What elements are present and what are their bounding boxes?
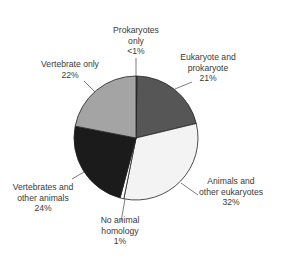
- label-percent: 21%: [173, 73, 243, 84]
- label-eukaryote-prokaryote: Eukaryote and prokaryote 21%: [173, 52, 243, 84]
- label-line: other eukaryotes: [191, 187, 271, 198]
- label-line: Animals and: [191, 176, 271, 187]
- label-prokaryotes-only: Prokaryotes only <1%: [111, 25, 161, 57]
- label-animals-other-eukaryotes: Animals and other eukaryotes 32%: [191, 176, 271, 208]
- label-line: other animals: [5, 193, 81, 204]
- label-line: only: [111, 36, 161, 47]
- label-no-animal-homology: No animal homology 1%: [94, 215, 146, 247]
- label-line: Vertebrates and: [5, 182, 81, 193]
- label-percent: 24%: [5, 203, 81, 214]
- label-vertebrate-only: Vertebrate only 22%: [34, 59, 106, 80]
- label-percent: 32%: [191, 197, 271, 208]
- label-line: No animal: [94, 215, 146, 226]
- label-line: Eukaryote and: [173, 52, 243, 63]
- label-line: Vertebrate only: [34, 59, 106, 70]
- label-percent: 22%: [34, 70, 106, 81]
- label-line: prokaryote: [173, 63, 243, 74]
- label-line: homology: [94, 226, 146, 237]
- label-line: Prokaryotes: [111, 25, 161, 36]
- label-vertebrates-other-animals: Vertebrates and other animals 24%: [5, 182, 81, 214]
- label-percent: 1%: [94, 236, 146, 247]
- label-percent: <1%: [111, 46, 161, 57]
